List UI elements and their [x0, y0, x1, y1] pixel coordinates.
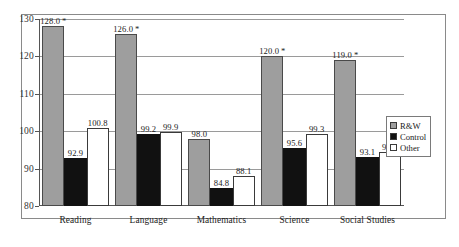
bar-slot: 119.0* — [334, 19, 356, 206]
bar-value-label: 120.0* — [259, 46, 285, 56]
bar-value-label: 93.1 — [360, 147, 375, 157]
bar-value-label: 84.8 — [214, 178, 229, 188]
plot-inner: 8090100110120130 128.0*92.9100.8Reading1… — [39, 19, 404, 206]
bar-group-bars: 98.084.888.1 — [185, 19, 258, 206]
bar-group: 128.0*92.9100.8Reading — [39, 19, 112, 206]
bar-slot: 98.0 — [188, 19, 210, 206]
bar-value-label: 88.1 — [236, 166, 251, 176]
bar-slot: 99.9 — [160, 19, 182, 206]
bar-group: 120.0*95.699.3Science — [258, 19, 331, 206]
x-axis-category-label: Mathematics — [185, 215, 258, 225]
bar-other[interactable]: 99.9 — [160, 132, 182, 206]
legend-swatch-control — [390, 133, 397, 140]
bar-rw[interactable]: 98.0 — [188, 139, 210, 206]
bar-control[interactable]: 93.1 — [356, 157, 378, 206]
legend-label: R&W — [400, 121, 421, 131]
bar-control[interactable]: 92.9 — [64, 158, 86, 206]
chart-legend: R&WControlOther — [386, 116, 431, 157]
bar-value-label: 99.3 — [309, 124, 324, 134]
bar-rw[interactable]: 128.0* — [42, 26, 64, 206]
legend-label: Other — [400, 143, 420, 153]
bar-value-label: 100.8 — [88, 118, 108, 128]
bar-other[interactable]: 94.4 — [379, 152, 401, 206]
x-axis-category-label: Science — [258, 215, 331, 225]
bar-group-bars: 120.0*95.699.3 — [258, 19, 331, 206]
bar-group-bars: 128.0*92.9100.8 — [39, 19, 112, 206]
legend-item-rw[interactable]: R&W — [390, 120, 426, 131]
bar-value-label: 98.0 — [192, 129, 207, 139]
bar-slot: 92.9 — [64, 19, 86, 206]
bar-control[interactable]: 95.6 — [283, 148, 305, 206]
legend-label: Control — [400, 132, 426, 142]
y-tick-label-130: 130 — [19, 14, 34, 24]
bar-slot: 126.0* — [115, 19, 137, 206]
bar-chart-figure: 8090100110120130 128.0*92.9100.8Reading1… — [0, 0, 459, 247]
bar-value-label: 99.9 — [163, 122, 178, 132]
bar-group: 126.0*99.299.9Language — [112, 19, 185, 206]
y-tick-label-100: 100 — [19, 126, 34, 136]
y-tick-label-90: 90 — [24, 164, 34, 174]
bar-slot: 95.6 — [283, 19, 305, 206]
bar-group: 98.084.888.1Mathematics — [185, 19, 258, 206]
y-tick-label-110: 110 — [20, 89, 35, 99]
bar-value-label: 119.0* — [332, 50, 358, 60]
bar-group: 119.0*93.194.4Social Studies — [331, 19, 404, 206]
bar-slot: 93.1 — [356, 19, 378, 206]
bar-rw[interactable]: 126.0* — [115, 34, 137, 206]
bar-control[interactable]: 99.2 — [137, 134, 159, 206]
bar-rw[interactable]: 120.0* — [261, 56, 283, 206]
y-tick-label-80: 80 — [24, 201, 34, 211]
bar-slot: 99.3 — [306, 19, 328, 206]
bar-slot: 84.8 — [210, 19, 232, 206]
legend-item-other[interactable]: Other — [390, 142, 426, 153]
bar-other[interactable]: 99.3 — [306, 134, 328, 206]
bar-slot: 94.4 — [379, 19, 401, 206]
y-tick-mark-80 — [35, 206, 39, 207]
bar-slot: 99.2 — [137, 19, 159, 206]
plot-area: 8090100110120130 128.0*92.9100.8Reading1… — [39, 19, 404, 206]
y-tick-label-120: 120 — [19, 51, 34, 61]
bar-value-label: 95.6 — [287, 138, 302, 148]
x-axis-category-label: Language — [112, 215, 185, 225]
legend-swatch-other — [390, 144, 397, 151]
bar-value-label: 126.0* — [113, 24, 139, 34]
x-axis-category-label: Social Studies — [331, 215, 404, 225]
bar-value-label: 99.2 — [141, 124, 156, 134]
bar-other[interactable]: 100.8 — [87, 128, 109, 206]
bar-groups: 128.0*92.9100.8Reading126.0*99.299.9Lang… — [39, 19, 404, 206]
bar-slot: 100.8 — [87, 19, 109, 206]
bar-value-label: 92.9 — [68, 148, 83, 158]
x-axis-category-label: Reading — [39, 215, 112, 225]
bar-group-bars: 119.0*93.194.4 — [331, 19, 404, 206]
bar-value-label: 128.0* — [40, 16, 66, 26]
legend-item-control[interactable]: Control — [390, 131, 426, 142]
bar-slot: 120.0* — [261, 19, 283, 206]
bar-control[interactable]: 84.8 — [210, 188, 232, 206]
bar-group-bars: 126.0*99.299.9 — [112, 19, 185, 206]
legend-swatch-rw — [390, 122, 397, 129]
bar-slot: 128.0* — [42, 19, 64, 206]
bar-slot: 88.1 — [233, 19, 255, 206]
bar-rw[interactable]: 119.0* — [334, 60, 356, 206]
bar-other[interactable]: 88.1 — [233, 176, 255, 206]
